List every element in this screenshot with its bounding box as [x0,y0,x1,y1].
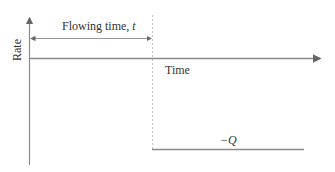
y-axis-label: Rate [11,35,23,65]
flowing-time-variable: t [132,19,135,33]
rate-value-label: −Q [220,134,237,146]
rate-time-diagram [0,0,335,172]
flowing-time-text: Flowing time, [62,19,132,33]
x-axis-label: Time [165,64,190,76]
flowing-time-label: Flowing time, t [62,20,136,32]
